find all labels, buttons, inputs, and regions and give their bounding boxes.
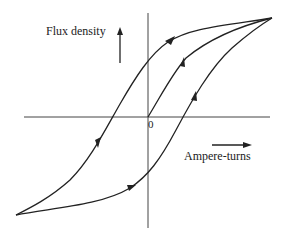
y-label-arrow-icon	[117, 27, 123, 35]
origin-label: 0	[148, 118, 154, 130]
y-axis-label: Flux density	[46, 24, 106, 39]
arrow-initial-icon	[180, 57, 185, 67]
x-label-arrow-icon	[243, 142, 252, 148]
initial-magnetization-curve	[148, 18, 272, 117]
arrow-ascending-bottom-icon	[127, 185, 136, 191]
hysteresis-diagram	[0, 0, 286, 240]
x-axis-label: Ampere-turns	[184, 149, 251, 164]
arrow-ascending-right-icon	[191, 91, 197, 101]
